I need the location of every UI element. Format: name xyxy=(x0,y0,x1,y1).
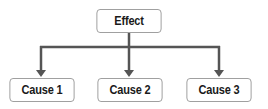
cause-1-node: Cause 1 xyxy=(9,78,74,102)
cause-3-node: Cause 3 xyxy=(186,78,251,102)
effect-node: Effect xyxy=(96,9,161,33)
cause-2-label: Cause 2 xyxy=(110,83,151,97)
arrow-down-icon xyxy=(214,70,224,77)
arrow-down-icon xyxy=(36,70,46,77)
cause-3-label: Cause 3 xyxy=(199,83,240,97)
effect-label: Effect xyxy=(114,14,144,28)
arrow-down-icon xyxy=(124,70,134,77)
cause-1-label: Cause 1 xyxy=(22,83,63,97)
cause-effect-diagram: Effect Cause 1 Cause 2 Cause 3 xyxy=(0,0,268,109)
cause-2-node: Cause 2 xyxy=(97,78,162,102)
